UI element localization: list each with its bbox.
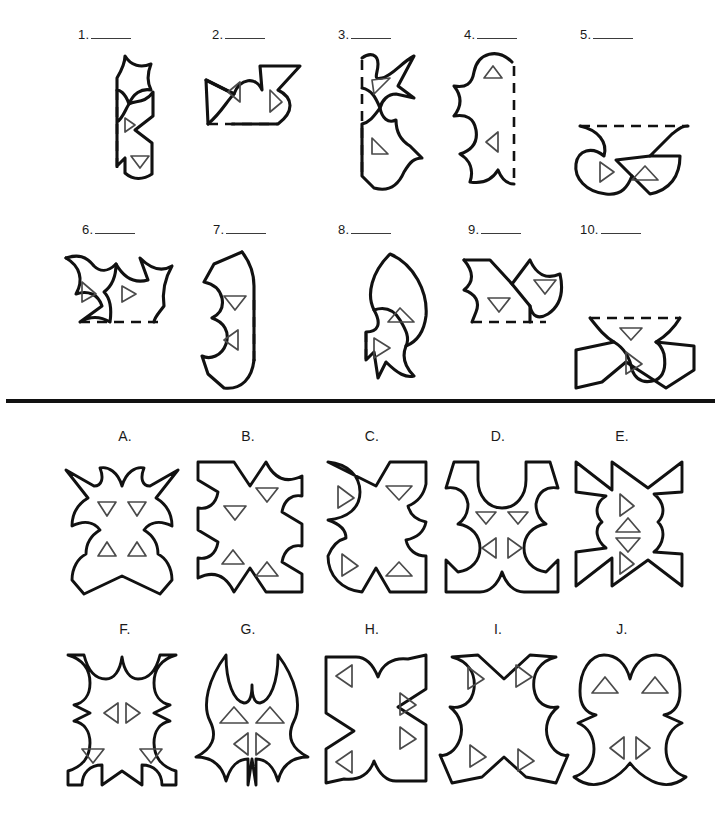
hole-left-triangle bbox=[610, 737, 624, 759]
hole-up-triangle bbox=[220, 707, 248, 723]
hole-down-triangle bbox=[476, 512, 496, 524]
hole-right-triangle bbox=[400, 727, 416, 749]
cut-path bbox=[117, 90, 153, 178]
hole-right-triangle bbox=[122, 286, 136, 302]
hole-right-triangle bbox=[516, 665, 532, 687]
question-label-8: 8. bbox=[338, 222, 391, 237]
hole-right-triangle bbox=[338, 486, 354, 508]
question-number-6: 6. bbox=[82, 222, 93, 237]
answer-blank-8[interactable] bbox=[351, 224, 391, 234]
hole-right-triangle bbox=[270, 90, 282, 112]
hole-up-triangle bbox=[256, 562, 278, 576]
hole-down-triangle bbox=[128, 502, 146, 516]
hole-left-triangle bbox=[234, 733, 248, 755]
answer-label-d: D. bbox=[468, 428, 528, 444]
figure-h-svg bbox=[316, 645, 441, 790]
cut-path bbox=[362, 55, 414, 108]
cut-path bbox=[512, 284, 530, 306]
hole-down-triangle bbox=[98, 502, 116, 516]
hole-right-triangle bbox=[342, 554, 358, 576]
answer-figure-h bbox=[316, 645, 441, 790]
question-label-9: 9. bbox=[468, 222, 521, 237]
answer-figure-i bbox=[442, 645, 567, 790]
question-figure-5 bbox=[570, 118, 700, 203]
figure-1-svg bbox=[95, 48, 175, 198]
answer-blank-10[interactable] bbox=[601, 224, 641, 234]
hole-up-triangle bbox=[484, 66, 502, 78]
answer-label-h: H. bbox=[342, 621, 402, 637]
cut-path bbox=[117, 56, 151, 104]
hole-right-triangle bbox=[372, 78, 390, 94]
hole-down-triangle bbox=[508, 512, 528, 524]
hole-right-triangle bbox=[256, 733, 270, 755]
question-number-2: 2. bbox=[212, 27, 223, 42]
answer-blank-2[interactable] bbox=[225, 29, 265, 39]
cut-path bbox=[206, 80, 234, 124]
answer-label-e: E. bbox=[592, 428, 652, 444]
outline-path bbox=[196, 655, 308, 785]
hole-left-triangle bbox=[104, 703, 118, 723]
answer-blank-1[interactable] bbox=[91, 29, 131, 39]
question-number-8: 8. bbox=[338, 222, 349, 237]
hole-right-triangle bbox=[518, 749, 534, 771]
figure-8-svg bbox=[352, 248, 437, 393]
figure-d-svg bbox=[440, 452, 565, 597]
outline-path bbox=[574, 655, 686, 784]
figure-2-svg bbox=[196, 50, 316, 140]
figure-i-svg bbox=[442, 645, 567, 790]
worksheet-page: 1. 2. 3. bbox=[0, 0, 721, 826]
cut-path bbox=[202, 252, 254, 388]
answer-figure-f bbox=[60, 645, 185, 790]
outline-path bbox=[66, 468, 178, 594]
cut-path bbox=[576, 126, 688, 194]
hole-left-triangle bbox=[486, 132, 498, 152]
question-figure-2 bbox=[196, 50, 316, 140]
hole-up-triangle bbox=[386, 562, 412, 576]
answer-label-j: J. bbox=[592, 621, 652, 637]
question-label-2: 2. bbox=[212, 27, 265, 42]
answer-blank-7[interactable] bbox=[226, 224, 266, 234]
hole-down-triangle bbox=[534, 280, 556, 294]
figure-10-svg bbox=[570, 310, 700, 395]
answer-blank-5[interactable] bbox=[593, 29, 633, 39]
hole-right-triangle bbox=[470, 745, 486, 767]
question-number-10: 10. bbox=[580, 222, 599, 237]
figure-7-svg bbox=[196, 248, 276, 393]
question-figure-6 bbox=[60, 250, 180, 335]
question-label-6: 6. bbox=[82, 222, 135, 237]
question-label-10: 10. bbox=[580, 222, 641, 237]
outline-path bbox=[198, 462, 302, 592]
answer-figure-e bbox=[568, 452, 693, 597]
hole-up-triangle bbox=[642, 677, 668, 693]
answer-label-f: F. bbox=[95, 621, 155, 637]
answer-blank-6[interactable] bbox=[95, 224, 135, 234]
hole-down-triangle bbox=[616, 538, 640, 552]
answer-figure-j bbox=[568, 645, 693, 790]
hole-down-triangle bbox=[131, 156, 149, 168]
answer-figure-b bbox=[188, 452, 313, 597]
hole-right-triangle bbox=[372, 138, 388, 154]
question-label-4: 4. bbox=[464, 27, 517, 42]
figure-3-svg bbox=[352, 50, 437, 195]
answer-blank-3[interactable] bbox=[351, 29, 391, 39]
figure-b-svg bbox=[188, 452, 313, 597]
answer-blank-9[interactable] bbox=[481, 224, 521, 234]
section-divider bbox=[6, 399, 715, 403]
hole-up-triangle bbox=[128, 542, 146, 556]
figure-9-svg bbox=[450, 250, 570, 335]
cut-path bbox=[362, 108, 422, 189]
hole-down-triangle bbox=[386, 486, 412, 500]
figure-a-svg bbox=[60, 452, 185, 597]
question-label-5: 5. bbox=[580, 27, 633, 42]
figure-4-svg bbox=[440, 50, 530, 195]
hole-left-triangle bbox=[482, 538, 496, 558]
question-number-5: 5. bbox=[580, 27, 591, 42]
hole-right-triangle bbox=[620, 494, 634, 516]
answer-figure-g bbox=[190, 645, 315, 790]
answer-label-b: B. bbox=[218, 428, 278, 444]
answer-label-i: I. bbox=[468, 621, 528, 637]
question-figure-9 bbox=[450, 250, 570, 335]
answer-blank-4[interactable] bbox=[477, 29, 517, 39]
hole-down-triangle bbox=[620, 328, 642, 340]
question-label-7: 7. bbox=[213, 222, 266, 237]
